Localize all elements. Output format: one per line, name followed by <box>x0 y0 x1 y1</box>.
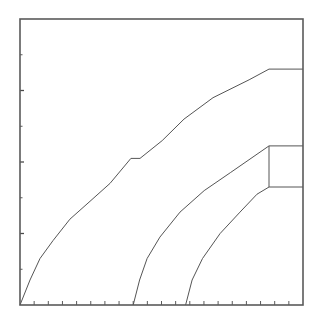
series-curve-1 <box>20 69 303 305</box>
plot-series <box>20 69 303 305</box>
plot-frame <box>20 19 303 305</box>
series-curve-3 <box>186 187 303 305</box>
chart <box>0 0 319 324</box>
series-curve-2 <box>133 146 303 305</box>
